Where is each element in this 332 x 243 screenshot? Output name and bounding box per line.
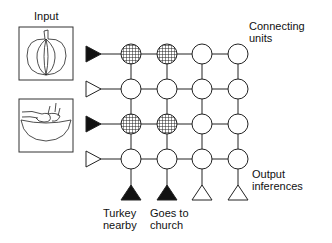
bowl-image [19,99,73,152]
input-unit-4-inactive [86,151,101,167]
connecting-unit-r3-c2-active [157,114,177,134]
connecting-unit-r1-c3 [192,44,212,64]
connecting-unit-r2-c1 [121,79,141,99]
output-unit-3-inactive [192,185,212,200]
input-unit-3-active [86,116,101,132]
connecting-unit-r4-c4 [228,149,248,169]
connecting-unit-r3-c4 [228,114,248,134]
output-unit-1-active [121,185,141,200]
connecting-unit-r2-c3 [192,79,212,99]
connecting-unit-r3-c3 [192,114,212,134]
output-unit-2-active [157,185,177,200]
connecting-unit-r4-c3 [192,149,212,169]
input-unit-2-inactive [86,81,101,97]
connecting-unit-r4-c2 [157,149,177,169]
connecting-unit-r4-c1 [121,149,141,169]
connecting-unit-r1-c2-active [157,44,177,64]
connecting-unit-r2-c4 [228,79,248,99]
connecting-unit-r3-c1-active [121,114,141,134]
pumpkin-image [19,27,73,80]
network-diagram [0,0,332,243]
input-unit-1-active [86,46,101,62]
connecting-unit-r1-c1-active [121,44,141,64]
connecting-unit-r2-c2 [157,79,177,99]
connecting-unit-r1-c4 [228,44,248,64]
output-unit-4-inactive [228,185,248,200]
